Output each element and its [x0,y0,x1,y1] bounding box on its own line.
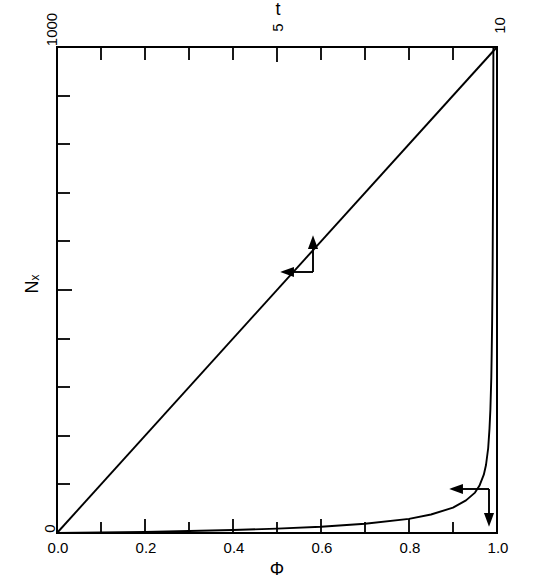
t-axis-title: t [270,0,286,18]
phi-tick-label-0-6: 0.6 [307,540,337,555]
phi-tick-label-0-2: 0.2 [131,540,161,555]
figure-panel: 5 10 t 1000 0 Nₓ 0.0 0.2 0.4 0.6 0.8 1.0… [0,0,544,588]
phi-tick-label-0-0: 0.0 [43,540,73,555]
t-tick-label-5: 5 [270,21,285,35]
phi-tick-label-0-8: 0.8 [395,540,425,555]
n-tick-label-0: 0 [42,520,57,538]
chart-canvas [0,0,544,588]
phi-tick-label-1-0: 1.0 [483,540,513,555]
phi-axis-title: Φ [262,560,292,578]
phi-tick-label-0-4: 0.4 [219,540,249,555]
n-axis-title: Nₓ [23,269,41,299]
n-tick-label-1000: 1000 [44,8,59,52]
t-tick-label-10: 10 [492,16,507,36]
